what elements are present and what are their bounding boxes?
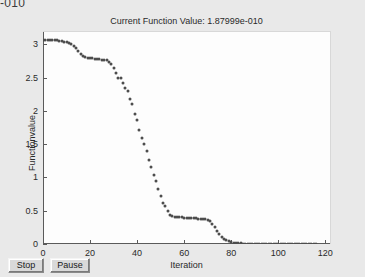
y-tick-label: 0: [10, 239, 38, 249]
x-tick-label: 0: [40, 248, 45, 258]
y-tick-label: 0.5: [10, 206, 38, 216]
y-tick-mark: [43, 44, 47, 45]
y-tick-mark: [43, 144, 47, 145]
y-tick-mark: [43, 78, 47, 79]
y-tick-mark: [43, 211, 47, 212]
x-tick-mark: [43, 240, 44, 244]
x-tick-mark: [231, 240, 232, 244]
y-axis-label: Functionvalue: [27, 98, 37, 188]
x-tick-label: 20: [85, 248, 95, 258]
y-tick-label: 3: [10, 39, 38, 49]
stop-button[interactable]: Stop: [8, 258, 44, 273]
x-tick-label: 40: [132, 248, 142, 258]
x-tick-label: 60: [179, 248, 189, 258]
y-tick-mark: [43, 111, 47, 112]
optimization-plot-window: -010 Current Function Value: 1.87999e-01…: [0, 0, 365, 277]
axes-top-border: [43, 31, 330, 32]
x-tick-mark: [137, 240, 138, 244]
x-tick-mark: [325, 240, 326, 244]
x-tick-label: 100: [271, 248, 286, 258]
pause-button[interactable]: Pause: [50, 258, 90, 273]
y-tick-label: 2.5: [10, 73, 38, 83]
x-tick-label: 120: [318, 248, 333, 258]
figure-panel: Current Function Value: 1.87999e-010 00.…: [10, 14, 355, 254]
x-tick-mark: [90, 240, 91, 244]
y-tick-mark: [43, 177, 47, 178]
clipped-header-text: -010: [0, 0, 25, 10]
plot-axes: [43, 31, 330, 244]
x-tick-mark: [184, 240, 185, 244]
x-tick-label: 80: [226, 248, 236, 258]
axes-right-border: [330, 31, 331, 244]
x-tick-mark: [278, 240, 279, 244]
button-bar: Stop Pause: [0, 258, 365, 277]
plot-title: Current Function Value: 1.87999e-010: [43, 16, 330, 26]
y-tick-mark: [43, 244, 47, 245]
